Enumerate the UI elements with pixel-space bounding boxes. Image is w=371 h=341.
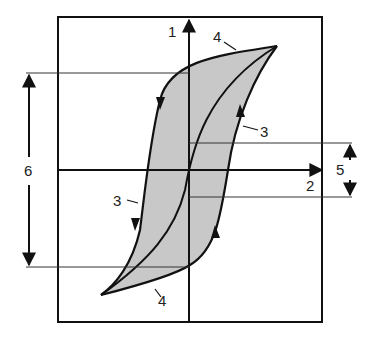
leader-4-top xyxy=(224,42,236,50)
label-coercive-span: 5 xyxy=(336,161,344,178)
label-branch-right: 3 xyxy=(260,123,268,140)
label-outer-loop-bottom: 4 xyxy=(158,292,166,309)
leader-3-left xyxy=(127,200,138,203)
label-horizontal-axis: 2 xyxy=(306,177,314,194)
label-branch-left: 3 xyxy=(113,192,121,209)
hysteresis-diagram: 1 2 4 3 3 4 5 6 xyxy=(0,0,371,341)
label-outer-loop-top: 4 xyxy=(213,28,221,45)
leader-3-right xyxy=(243,126,258,130)
label-vertical-axis: 1 xyxy=(168,23,176,40)
arrow-down-left-branch-bottom xyxy=(131,218,140,231)
label-remanence-span: 6 xyxy=(24,162,32,179)
